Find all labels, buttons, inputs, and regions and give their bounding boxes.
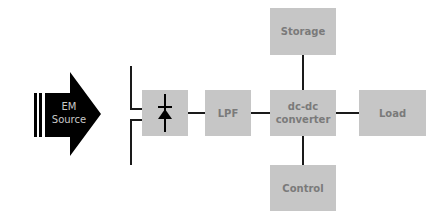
load-block: Load <box>359 90 426 136</box>
rectifier-block <box>142 90 188 136</box>
em-source-label: EM Source <box>48 100 90 126</box>
lpf-label: LPF <box>218 107 239 120</box>
em-label-line1: EM <box>48 100 90 113</box>
converter-label-line2: converter <box>276 113 331 126</box>
lpf-converter-connector <box>251 112 270 114</box>
storage-label: Storage <box>281 25 325 38</box>
rectifier-lpf-connector <box>188 112 205 114</box>
converter-control-connector <box>302 136 304 165</box>
control-block: Control <box>270 165 336 211</box>
control-label: Control <box>282 182 323 195</box>
diode-icon <box>142 90 188 136</box>
converter-label-line1: dc-dc <box>288 100 318 113</box>
converter-load-connector <box>336 112 359 114</box>
storage-block: Storage <box>270 8 336 55</box>
em-label-line2: Source <box>48 113 90 126</box>
storage-converter-connector <box>302 55 304 90</box>
converter-block: dc-dc converter <box>270 90 336 136</box>
load-label: Load <box>379 107 406 120</box>
lpf-block: LPF <box>205 90 251 136</box>
